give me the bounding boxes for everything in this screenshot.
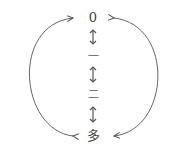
node-zero: 0 <box>85 11 101 25</box>
cycle-diagram: 0 一 二 多 <box>0 0 182 153</box>
left-arc-arrow <box>29 18 73 136</box>
double-arrow-1-2 <box>90 67 96 82</box>
node-two: 二 <box>85 88 101 102</box>
double-arrow-0-1 <box>90 30 96 44</box>
node-many: 多 <box>85 129 101 143</box>
double-arrow-2-many <box>90 107 96 122</box>
right-arc-arrow <box>114 18 158 136</box>
node-one: 一 <box>85 50 101 64</box>
